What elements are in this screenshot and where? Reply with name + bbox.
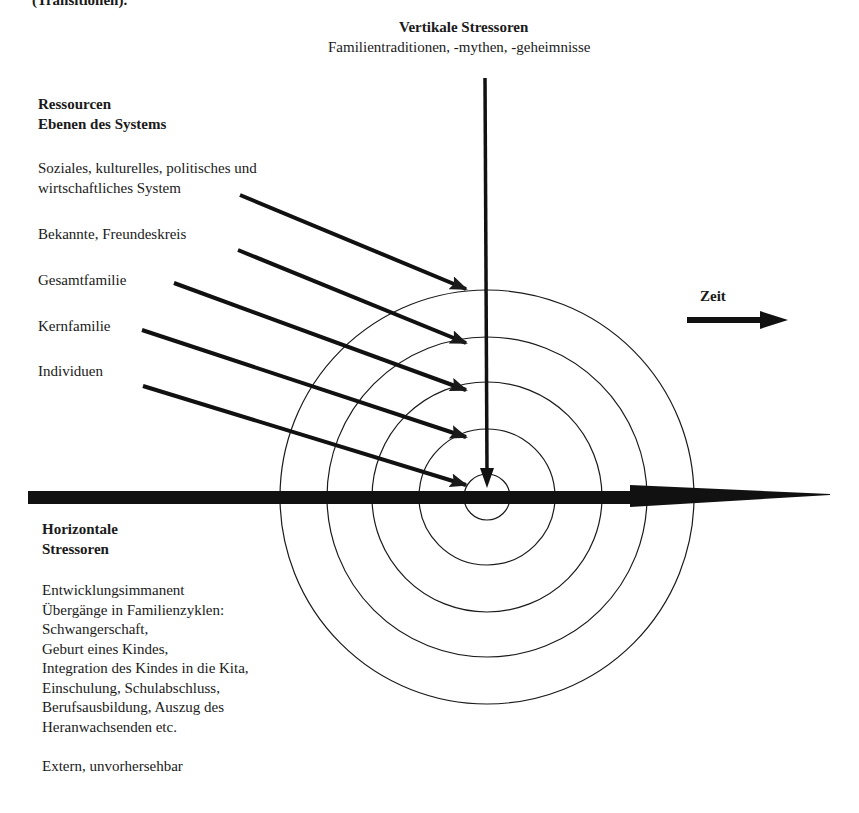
stress-diagram (0, 0, 859, 813)
arrow-social-system (240, 195, 466, 289)
horizontal-stressor-arrow (28, 485, 830, 507)
arrow-individuals (143, 386, 466, 485)
time-arrow (687, 311, 788, 329)
resource-arrows (142, 195, 466, 485)
vertical-stressor-arrow (480, 78, 494, 488)
arrow-acquaintances (238, 250, 466, 343)
arrow-nuclear-family (142, 330, 466, 437)
